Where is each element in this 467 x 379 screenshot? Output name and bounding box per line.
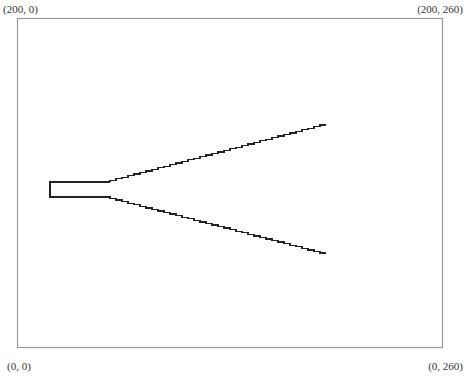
diagram-canvas xyxy=(0,0,467,379)
horn-outline xyxy=(50,125,326,253)
plot-frame xyxy=(18,19,443,348)
